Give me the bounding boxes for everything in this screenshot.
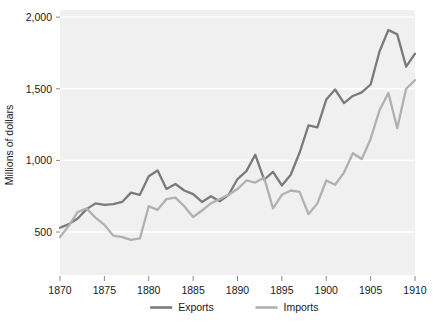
chart-legend: ExportsImports xyxy=(150,301,318,313)
x-tick-label: 1900 xyxy=(315,284,339,296)
chart-container: 5001,0001,5002,000 187018751880188518901… xyxy=(0,0,433,329)
x-tick-label: 1905 xyxy=(359,284,383,296)
x-tick-label: 1895 xyxy=(270,284,294,296)
x-tick-label: 1880 xyxy=(137,284,161,296)
legend-label-imports: Imports xyxy=(284,301,319,313)
y-tick-label: 1,500 xyxy=(26,83,52,95)
x-tick-label: 1910 xyxy=(403,284,427,296)
y-tick-label: 500 xyxy=(34,226,52,238)
x-tick-label: 1870 xyxy=(48,284,72,296)
y-tick-label: 1,000 xyxy=(26,154,52,166)
y-axis-tickmarks xyxy=(56,17,60,232)
x-tick-label: 1875 xyxy=(93,284,117,296)
legend-label-exports: Exports xyxy=(178,301,214,313)
y-axis-tick-labels: 5001,0001,5002,000 xyxy=(26,11,52,238)
y-tick-label: 2,000 xyxy=(26,11,52,23)
y-axis-title: Millions of dollars xyxy=(3,105,15,186)
x-axis-tickmarks xyxy=(60,276,415,281)
x-tick-label: 1885 xyxy=(181,284,205,296)
line-chart: 5001,0001,5002,000 187018751880188518901… xyxy=(0,0,433,329)
x-axis-tick-labels: 187018751880188518901895190019051910 xyxy=(48,284,427,296)
x-tick-label: 1890 xyxy=(226,284,250,296)
